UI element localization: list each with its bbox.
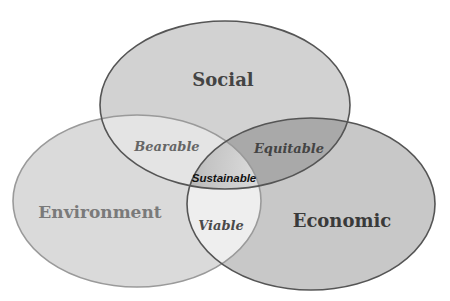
label-viable: Viable xyxy=(198,218,244,233)
label-equitable: Equitable xyxy=(253,141,324,156)
label-environment: Environment xyxy=(38,202,161,222)
label-bearable: Bearable xyxy=(133,139,199,154)
label-social: Social xyxy=(192,69,253,90)
label-sustainable: Sustainable xyxy=(192,172,257,184)
venn-diagram: Social Environment Economic Bearable Equ… xyxy=(0,0,450,301)
label-economic: Economic xyxy=(293,210,392,231)
